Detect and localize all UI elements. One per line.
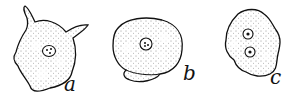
- cell-b: b: [113, 18, 196, 85]
- label-a: a: [64, 72, 76, 96]
- nucleus-icon: [43, 46, 56, 57]
- nucleus-icon: [245, 47, 255, 57]
- label-b: b: [183, 61, 196, 85]
- cell-illustration: a b c: [0, 0, 298, 98]
- cell-a: a: [14, 6, 88, 96]
- cell-c: c: [225, 10, 281, 90]
- label-c: c: [270, 65, 281, 89]
- nucleus-icon: [140, 38, 152, 50]
- nucleus-icon: [243, 29, 253, 39]
